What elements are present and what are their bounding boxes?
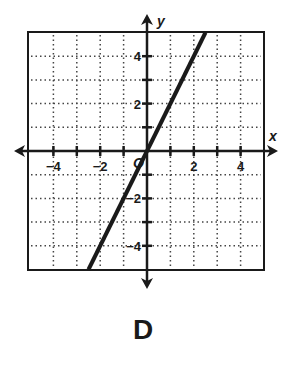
y-axis-label: y bbox=[156, 13, 166, 29]
x-tick-label: −4 bbox=[46, 159, 62, 174]
y-tick-label: 2 bbox=[134, 97, 141, 112]
origin-label: O bbox=[133, 155, 144, 171]
x-tick-label: 4 bbox=[237, 159, 245, 174]
x-axis-label: x bbox=[268, 128, 278, 144]
x-tick-label: 2 bbox=[190, 159, 197, 174]
y-tick-label: −4 bbox=[126, 239, 142, 254]
coordinate-plane: −4−22442−2−4 x y O bbox=[0, 0, 286, 300]
y-tick-label: 4 bbox=[134, 49, 142, 64]
option-label: D bbox=[0, 314, 286, 346]
y-tick-label: −2 bbox=[126, 191, 141, 206]
x-tick-label: −2 bbox=[93, 159, 108, 174]
